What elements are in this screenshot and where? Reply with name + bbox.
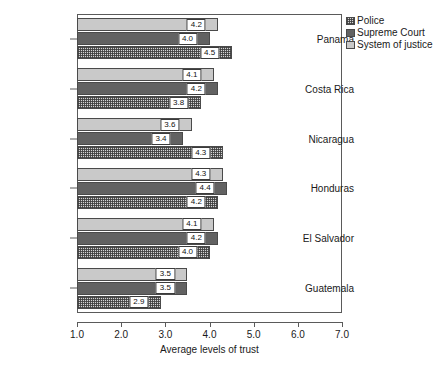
x-axis-tick xyxy=(254,322,255,327)
value-label: 3.8 xyxy=(169,97,188,109)
legend-swatch-icon xyxy=(346,17,355,25)
category-tick xyxy=(70,288,77,289)
legend-item-system-of-justice[interactable]: System of justice xyxy=(346,39,433,50)
x-axis-tick-label: 4.0 xyxy=(203,329,217,341)
value-label: 4.0 xyxy=(178,246,197,258)
x-axis-tick xyxy=(210,322,211,327)
category-label-el-salvador: El Salvador xyxy=(303,233,354,244)
category-label-honduras: Honduras xyxy=(311,183,354,194)
category-label-nicaragua: Nicaragua xyxy=(308,133,354,144)
value-label: 3.4 xyxy=(151,133,170,145)
category-label-costa-rica: Costa Rica xyxy=(305,83,354,94)
value-label: 4.5 xyxy=(200,47,219,59)
legend-swatch-icon xyxy=(346,41,355,49)
x-axis-tick-label: 7.0 xyxy=(335,329,349,341)
legend-label: Police xyxy=(357,15,384,26)
value-label: 3.5 xyxy=(156,282,175,294)
x-axis-tick-label: 2.0 xyxy=(114,329,128,341)
legend-item-police[interactable]: Police xyxy=(346,15,433,26)
category-tick xyxy=(70,88,77,89)
x-axis-tick-label: 1.0 xyxy=(70,329,84,341)
bar-chart: 4.24.04.54.14.23.83.63.44.34.34.44.24.14… xyxy=(0,0,440,370)
value-label: 4.4 xyxy=(196,182,215,194)
value-label: 4.2 xyxy=(187,232,206,244)
x-axis-tick-label: 3.0 xyxy=(158,329,172,341)
value-label: 3.5 xyxy=(156,268,175,280)
x-axis-tick xyxy=(298,322,299,327)
value-label: 4.3 xyxy=(191,168,210,180)
bars-layer: 4.24.04.54.14.23.83.63.44.34.34.44.24.14… xyxy=(77,14,342,313)
value-label: 2.9 xyxy=(129,296,148,308)
value-label: 4.1 xyxy=(182,218,201,230)
x-axis-tick xyxy=(121,322,122,327)
x-axis-tick-label: 6.0 xyxy=(291,329,305,341)
value-label: 4.2 xyxy=(187,19,206,31)
category-tick xyxy=(70,238,77,239)
category-tick xyxy=(70,38,77,39)
category-tick xyxy=(70,138,77,139)
legend-label: System of justice xyxy=(357,39,433,50)
x-axis-tick xyxy=(165,322,166,327)
value-label: 4.1 xyxy=(182,69,201,81)
value-label: 4.0 xyxy=(178,33,197,45)
category-label-guatemala: Guatemala xyxy=(305,283,354,294)
category-tick xyxy=(70,188,77,189)
value-label: 4.3 xyxy=(191,147,210,159)
legend-label: Supreme Court xyxy=(357,27,425,38)
value-label: 4.2 xyxy=(187,83,206,95)
value-label: 4.2 xyxy=(187,196,206,208)
legend: PoliceSupreme CourtSystem of justice xyxy=(346,15,433,51)
value-label: 3.6 xyxy=(160,119,179,131)
legend-swatch-icon xyxy=(346,29,355,37)
legend-item-supreme-court[interactable]: Supreme Court xyxy=(346,27,433,38)
x-axis-tick xyxy=(77,322,78,327)
x-axis-tick-label: 5.0 xyxy=(247,329,261,341)
x-axis-tick xyxy=(342,322,343,327)
x-axis-title: Average levels of trust xyxy=(77,344,342,356)
